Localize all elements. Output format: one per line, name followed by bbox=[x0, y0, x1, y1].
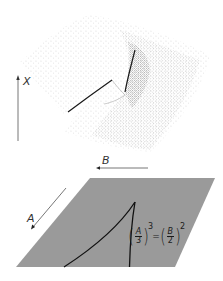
fraction-a-over-3: A 3 bbox=[135, 228, 142, 245]
fraction-b-over-2: B 2 bbox=[167, 228, 175, 245]
x-axis-label: X bbox=[23, 76, 31, 87]
equals-sign: = bbox=[152, 232, 160, 241]
b-axis-label: B bbox=[102, 155, 110, 166]
cusp-equation: ( A 3 ) 3 = ( B 2 ) 2 bbox=[127, 226, 185, 246]
behavior-surface bbox=[20, 15, 210, 152]
plane-parallelogram bbox=[16, 178, 215, 267]
exponent-2: 2 bbox=[180, 223, 185, 231]
cusp-catastrophe-diagram bbox=[0, 0, 223, 281]
paren-open: ( bbox=[160, 226, 165, 246]
denominator-2: 2 bbox=[168, 237, 173, 245]
exponent-3: 3 bbox=[148, 223, 153, 231]
a-axis-label: A bbox=[27, 213, 35, 224]
x-axis-arrow bbox=[16, 75, 19, 141]
control-plane bbox=[16, 178, 215, 267]
paren-open: ( bbox=[128, 226, 133, 246]
denominator-3: 3 bbox=[136, 237, 141, 245]
